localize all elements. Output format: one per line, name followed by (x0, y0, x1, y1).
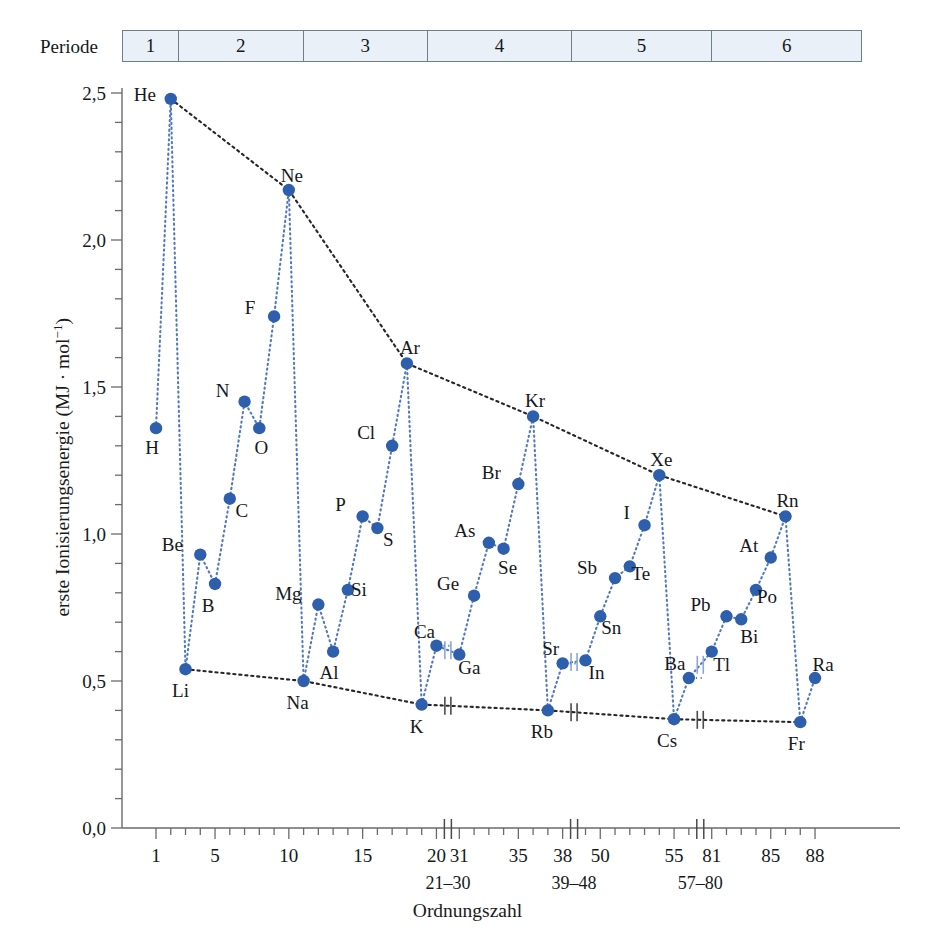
data-point-marker[interactable] (497, 543, 509, 555)
data-point-Se[interactable]: Se (497, 543, 517, 578)
element-label: K (410, 716, 424, 737)
data-point-Sb[interactable]: Sb (577, 557, 621, 584)
y-tick-label: 2,5 (82, 83, 106, 104)
data-point-marker[interactable] (720, 610, 732, 622)
data-point-Ge[interactable]: Ge (437, 573, 480, 602)
data-point-marker[interactable] (512, 478, 524, 490)
data-point-Ba[interactable]: Ba (664, 653, 695, 684)
data-point-marker[interactable] (150, 422, 162, 434)
data-point-marker[interactable] (638, 519, 650, 531)
data-point-marker[interactable] (179, 663, 191, 675)
data-point-Bi[interactable]: Bi (735, 613, 758, 647)
data-point-marker[interactable] (224, 493, 236, 505)
period-series-line-1 (156, 99, 171, 428)
data-point-Cl[interactable]: Cl (357, 422, 398, 452)
data-point-marker[interactable] (415, 698, 427, 710)
data-point-K[interactable]: K (410, 698, 428, 736)
data-point-Tl[interactable]: Tl (706, 645, 731, 674)
data-point-marker[interactable] (609, 572, 621, 584)
data-point-As[interactable]: As (454, 520, 495, 549)
data-point-marker[interactable] (356, 510, 368, 522)
alkali-metal-envelope (186, 669, 801, 722)
vertical-drop-Rn-Fr (786, 516, 801, 722)
data-point-marker[interactable] (765, 551, 777, 563)
data-point-H[interactable]: H (145, 422, 162, 458)
data-point-Rn[interactable]: Rn (776, 490, 799, 522)
vertical-drop-Xe-Cs (659, 475, 674, 719)
data-point-marker[interactable] (165, 93, 177, 105)
element-label: Si (351, 579, 367, 600)
element-label: Br (482, 462, 502, 483)
data-point-marker[interactable] (483, 537, 495, 549)
data-point-B[interactable]: B (202, 578, 222, 616)
x-tick-label: 85 (761, 845, 780, 866)
data-point-marker[interactable] (194, 548, 206, 560)
data-point-F[interactable]: F (245, 297, 280, 322)
data-point-marker[interactable] (297, 675, 309, 687)
data-point-In[interactable]: In (579, 654, 605, 683)
element-label: Bi (740, 626, 758, 647)
data-point-Al[interactable]: Al (320, 645, 340, 682)
element-label: Sn (601, 617, 622, 638)
data-point-Ne[interactable]: Ne (281, 165, 303, 196)
y-tick-label: 0,5 (82, 671, 106, 692)
data-point-marker[interactable] (542, 704, 554, 716)
data-point-Pb[interactable]: Pb (690, 594, 732, 622)
data-point-At[interactable]: At (739, 535, 777, 564)
data-point-marker[interactable] (653, 469, 665, 481)
data-point-marker[interactable] (779, 510, 791, 522)
data-point-Ga[interactable]: Ga (453, 648, 481, 677)
x-axis-break-label: 39–48 (552, 873, 597, 893)
data-point-marker[interactable] (268, 310, 280, 322)
x-tick-label: 38 (553, 845, 572, 866)
element-label: Ga (458, 657, 481, 678)
data-point-O[interactable]: O (253, 422, 268, 458)
data-point-N[interactable]: N (216, 380, 251, 408)
x-tick-label: 31 (450, 845, 469, 866)
data-point-Cs[interactable]: Cs (657, 713, 680, 751)
y-tick-label: 1,5 (82, 377, 106, 398)
element-label: Ca (414, 621, 436, 642)
data-point-marker[interactable] (327, 645, 339, 657)
chart-plot-area: 0,00,51,01,52,02,51510152031353850558185… (0, 0, 935, 947)
data-point-Mg[interactable]: Mg (275, 583, 324, 611)
element-label: Na (287, 692, 310, 713)
element-label: At (739, 535, 759, 556)
data-point-Xe[interactable]: Xe (650, 449, 672, 481)
data-point-marker[interactable] (401, 357, 413, 369)
data-point-Be[interactable]: Be (162, 534, 207, 561)
data-point-Li[interactable]: Li (172, 663, 192, 701)
data-point-P[interactable]: P (335, 494, 368, 522)
data-point-Na[interactable]: Na (287, 675, 310, 713)
x-tick-label: 35 (509, 845, 528, 866)
data-point-marker[interactable] (386, 440, 398, 452)
data-point-marker[interactable] (371, 522, 383, 534)
x-axis-break-label: 57–80 (678, 873, 723, 893)
data-point-S[interactable]: S (371, 522, 393, 550)
data-point-marker[interactable] (527, 410, 539, 422)
data-point-marker[interactable] (468, 590, 480, 602)
y-axis-title: erste Ionisierungsenergie (MJ · mol−1) (50, 187, 75, 747)
period-series-line-7 (800, 678, 815, 722)
data-point-marker[interactable] (735, 613, 747, 625)
vertical-drop-Ar-K (407, 363, 422, 704)
element-label: Xe (650, 449, 672, 470)
data-point-marker[interactable] (668, 713, 680, 725)
data-point-marker[interactable] (794, 716, 806, 728)
data-point-marker[interactable] (253, 422, 265, 434)
data-point-Po[interactable]: Po (750, 584, 777, 607)
data-point-marker[interactable] (312, 598, 324, 610)
data-point-Kr[interactable]: Kr (525, 390, 546, 422)
data-point-Ra[interactable]: Ra (809, 654, 834, 684)
data-point-marker[interactable] (209, 578, 221, 590)
data-point-Ar[interactable]: Ar (400, 337, 421, 369)
element-label: Ra (812, 654, 834, 675)
element-label: Sb (577, 557, 597, 578)
element-label: In (589, 662, 605, 683)
data-point-marker[interactable] (238, 396, 250, 408)
element-label: Fr (788, 733, 806, 754)
data-point-Te[interactable]: Te (624, 560, 651, 584)
data-point-Br[interactable]: Br (482, 462, 525, 490)
data-point-He[interactable]: He (134, 84, 177, 105)
data-point-Rb[interactable]: Rb (531, 704, 554, 742)
